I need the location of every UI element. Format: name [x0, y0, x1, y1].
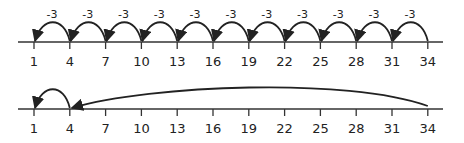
- jump-label: -3: [190, 8, 201, 21]
- tick-label: 34: [420, 121, 437, 136]
- tick-label: 28: [348, 121, 365, 136]
- jump-arrow: [214, 22, 249, 41]
- tick-label: 19: [241, 54, 258, 69]
- tick-label: 7: [101, 121, 109, 136]
- tick-label: 1: [30, 54, 38, 69]
- jump-label: -3: [154, 8, 165, 21]
- jump-label: -3: [369, 8, 380, 21]
- jump-label: -3: [118, 8, 129, 21]
- tick-label: 19: [241, 121, 258, 136]
- jump-arrow: [35, 22, 70, 41]
- number-line-top: 147101316192225283134-3-3-3-3-3-3-3-3-3-…: [18, 8, 443, 69]
- jump-label: -3: [404, 8, 415, 21]
- tick-label: 28: [348, 54, 365, 69]
- jump-arrow: [286, 22, 321, 41]
- tick-label: 10: [133, 54, 150, 69]
- tick-label: 7: [101, 54, 109, 69]
- tick-label: 4: [66, 121, 74, 136]
- tick-label: 31: [384, 121, 401, 136]
- tick-label: 22: [276, 121, 293, 136]
- tick-label: 22: [276, 54, 293, 69]
- tick-label: 25: [312, 54, 329, 69]
- jump-arrow: [107, 22, 142, 41]
- jump-arrow: [321, 22, 356, 41]
- jump-label: -3: [297, 8, 308, 21]
- jump-label: -3: [225, 8, 236, 21]
- tick-label: 31: [384, 54, 401, 69]
- tick-label: 10: [133, 121, 150, 136]
- tick-label: 34: [420, 54, 437, 69]
- tick-label: 16: [205, 121, 222, 136]
- jump-label: -3: [333, 8, 344, 21]
- tick-label: 4: [66, 54, 74, 69]
- number-line-diagram: 147101316192225283134-3-3-3-3-3-3-3-3-3-…: [0, 0, 464, 143]
- jump-arrow: [178, 22, 213, 41]
- jump-arrow: [142, 22, 177, 41]
- tick-label: 1: [30, 121, 38, 136]
- jump-arrow: [35, 89, 70, 108]
- jump-arrow: [71, 22, 106, 41]
- tick-label: 16: [205, 54, 222, 69]
- jump-arrow: [393, 22, 428, 41]
- jump-label: -3: [46, 8, 57, 21]
- jump-arrow: [250, 22, 285, 41]
- number-line-bottom: 147101316192225283134: [18, 87, 443, 136]
- jump-arrow: [72, 87, 428, 108]
- tick-label: 25: [312, 121, 329, 136]
- jump-label: -3: [261, 8, 272, 21]
- jump-label: -3: [82, 8, 93, 21]
- jump-arrow: [357, 22, 392, 41]
- tick-label: 13: [169, 121, 186, 136]
- tick-label: 13: [169, 54, 186, 69]
